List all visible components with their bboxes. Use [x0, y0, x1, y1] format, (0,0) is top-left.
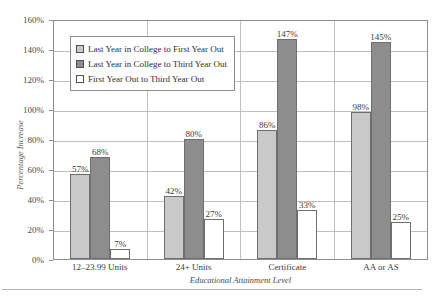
y-tick-label: 100%: [0, 105, 44, 115]
bar[interactable]: 25%: [391, 222, 411, 260]
bar[interactable]: 80%: [184, 139, 204, 259]
y-tick-label: 40%: [0, 195, 44, 205]
bar[interactable]: 98%: [351, 112, 371, 259]
legend-item[interactable]: Last Year in College to Third Year Out: [76, 56, 227, 71]
x-tick-label: 24+ Units: [147, 262, 241, 272]
y-tick-label: 120%: [0, 75, 44, 85]
y-tick-label: 140%: [0, 45, 44, 55]
bar-value-label: 57%: [72, 164, 89, 174]
bar-value-label: 42%: [166, 186, 183, 196]
legend-label: First Year Out to Third Year Out: [88, 74, 204, 84]
bar-value-label: 7%: [114, 239, 126, 249]
bar[interactable]: 147%: [277, 39, 297, 260]
x-axis-title: Educational Attainment Level: [53, 275, 428, 285]
bar-value-label: 80%: [186, 129, 203, 139]
y-tick-label: 160%: [0, 15, 44, 25]
bar[interactable]: 42%: [164, 196, 184, 259]
y-tick-label: 0%: [0, 255, 44, 265]
bar-slot: 98%: [351, 21, 371, 259]
footer-divider: [2, 289, 422, 290]
y-tick-label: 60%: [0, 165, 44, 175]
bar-slot: 33%: [297, 21, 317, 259]
bar[interactable]: 7%: [110, 249, 130, 260]
bar-value-label: 68%: [92, 147, 109, 157]
x-axis-tick-labels: 12–23.99 Units24+ UnitsCertificateAA or …: [53, 262, 428, 272]
legend-swatch-icon: [76, 75, 84, 83]
legend-item[interactable]: First Year Out to Third Year Out: [76, 71, 227, 86]
bar-value-label: 86%: [259, 120, 276, 130]
bar-group: 98%145%25%: [335, 21, 428, 259]
bar-group: 86%147%33%: [241, 21, 335, 259]
y-tick-label: 20%: [0, 225, 44, 235]
chart-figure: Percentage Increase 0%20%40%60%80%100%12…: [0, 0, 437, 297]
y-axis-title: Percentage Increase: [15, 100, 25, 210]
bar-slot: 145%: [371, 21, 391, 259]
bar[interactable]: 86%: [257, 130, 277, 259]
legend-swatch-icon: [76, 60, 84, 68]
y-tick-label: 80%: [0, 135, 44, 145]
x-tick-label: 12–23.99 Units: [53, 262, 147, 272]
legend-item[interactable]: Last Year in College to First Year Out: [76, 41, 227, 56]
y-tick-mark: [49, 260, 53, 261]
chart-legend: Last Year in College to First Year OutLa…: [70, 36, 235, 91]
bar-value-label: 27%: [206, 209, 223, 219]
bar-value-label: 98%: [353, 102, 370, 112]
bar-value-label: 145%: [370, 32, 391, 42]
bar[interactable]: 57%: [70, 174, 90, 260]
bar-slot: 147%: [277, 21, 297, 259]
x-tick-label: AA or AS: [334, 262, 428, 272]
bar-value-label: 33%: [299, 200, 316, 210]
x-tick-label: Certificate: [241, 262, 335, 272]
bar-value-label: 147%: [277, 29, 298, 39]
legend-label: Last Year in College to Third Year Out: [88, 59, 227, 69]
bar[interactable]: 27%: [204, 219, 224, 260]
bar-value-label: 25%: [393, 212, 410, 222]
bar[interactable]: 33%: [297, 210, 317, 260]
bar-slot: 86%: [257, 21, 277, 259]
legend-swatch-icon: [76, 45, 84, 53]
bar-slot: 25%: [391, 21, 411, 259]
bar[interactable]: 68%: [90, 157, 110, 259]
bar[interactable]: 145%: [371, 42, 391, 260]
legend-label: Last Year in College to First Year Out: [88, 44, 224, 54]
